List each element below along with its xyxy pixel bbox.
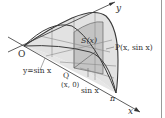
- y-axis-label: y: [115, 3, 122, 13]
- curve-label: y=sin x: [22, 66, 52, 75]
- x-axis-label: x: [128, 106, 133, 116]
- side-length-label: sin x: [81, 86, 99, 95]
- y-axis-arrow-icon: [109, 2, 115, 6]
- section-area-label: S(x): [81, 36, 97, 45]
- solid-figure: y x O π S(x) P(x, sin x) y=sin x Q (x, 0…: [0, 0, 165, 118]
- point-p-label: P(x, sin x): [115, 43, 153, 52]
- origin-label: O: [18, 49, 25, 59]
- x-axis-arrow-icon: [134, 107, 140, 112]
- point-q-coords-label: (x, 0): [61, 81, 80, 89]
- point-q-label: Q: [63, 71, 69, 80]
- pi-label: π: [109, 94, 116, 103]
